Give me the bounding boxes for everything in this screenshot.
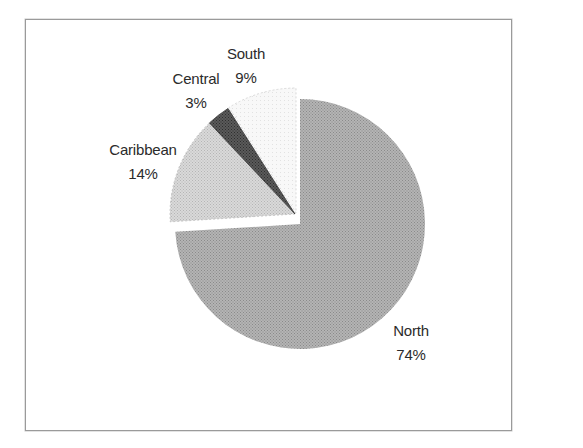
pie-slices <box>170 88 425 349</box>
pie-chart <box>0 0 583 448</box>
label-south-name: South <box>227 42 265 66</box>
label-north-pct: 74% <box>393 343 429 367</box>
label-caribbean-name: Caribbean <box>109 138 176 162</box>
label-central-name: Central <box>173 67 220 91</box>
label-south: South 9% <box>227 42 265 90</box>
label-central: Central 3% <box>173 67 220 115</box>
label-caribbean-pct: 14% <box>109 162 176 186</box>
label-south-pct: 9% <box>227 66 265 90</box>
label-north: North 74% <box>393 319 429 367</box>
label-caribbean: Caribbean 14% <box>109 138 176 186</box>
label-north-name: North <box>393 319 429 343</box>
label-central-pct: 3% <box>173 91 220 115</box>
